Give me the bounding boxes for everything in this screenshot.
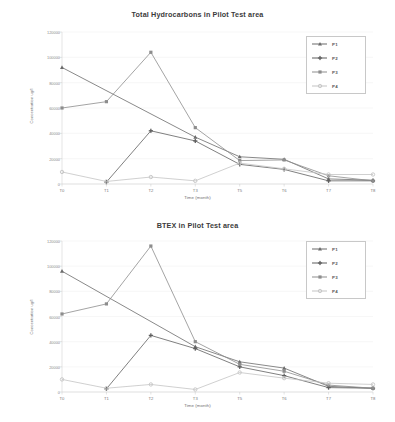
legend-item-P1[interactable]: P1: [307, 37, 365, 51]
data-point-triangle: [318, 247, 322, 251]
legend[interactable]: P1P2P3P4: [306, 241, 366, 299]
legend-label: P3: [332, 70, 338, 75]
data-point-square: [194, 340, 197, 343]
data-point-square: [60, 106, 63, 109]
y-tick-label: 60000: [49, 106, 60, 111]
data-point-square: [60, 312, 63, 315]
series-line-P4: [62, 163, 373, 181]
y-tick-label: 0: [58, 390, 60, 395]
legend-item-P2[interactable]: P2: [307, 51, 365, 65]
legend-item-P2[interactable]: P2: [307, 256, 365, 270]
data-point-square: [105, 302, 108, 305]
data-point-triangle: [193, 135, 197, 139]
legend-label: P2: [332, 261, 338, 266]
data-point-square: [318, 70, 321, 73]
plot-area: 020000400006000080000100000120000T0T1T2T…: [0, 0, 395, 211]
data-point-square: [371, 179, 374, 182]
data-point-square: [149, 51, 152, 54]
data-point-triangle: [60, 65, 64, 69]
legend-marker-icon: [312, 55, 327, 62]
y-tick-label: 100000: [47, 264, 60, 269]
y-tick-label: 80000: [49, 80, 60, 85]
legend-item-P1[interactable]: P1: [307, 242, 365, 256]
plot-area: 020000400006000080000100000120000T0T1T2T…: [0, 211, 395, 422]
y-tick-label: 120000: [47, 239, 60, 244]
x-tick-label: T0: [60, 188, 65, 193]
x-tick-label: T5: [237, 396, 242, 401]
legend-marker-icon: [312, 274, 327, 281]
legend-marker-icon: [312, 69, 327, 76]
data-point-square: [105, 100, 108, 103]
x-tick-label: T6: [282, 396, 287, 401]
x-tick-label: T3: [193, 188, 198, 193]
chart-total-hydrocarbons: Total Hydrocarbons in Pilot Test area Co…: [0, 0, 395, 211]
data-point-square: [194, 126, 197, 129]
data-point-circle: [318, 84, 321, 87]
charts-page: Total Hydrocarbons in Pilot Test area Co…: [0, 0, 395, 422]
data-point-square: [318, 275, 321, 278]
y-tick-label: 100000: [47, 55, 60, 60]
y-tick-label: 40000: [49, 131, 60, 136]
legend-label: P1: [332, 42, 338, 47]
data-point-plus: [193, 139, 197, 143]
legend-label: P4: [332, 289, 338, 294]
data-point-plus: [317, 261, 321, 265]
x-tick-label: T8: [371, 188, 376, 193]
y-tick-label: 20000: [49, 156, 60, 161]
data-point-plus: [317, 56, 321, 60]
data-point-circle: [318, 289, 321, 292]
y-tick-label: 40000: [49, 339, 60, 344]
y-tick-label: 60000: [49, 314, 60, 319]
legend-marker-icon: [312, 260, 327, 267]
y-tick-label: 20000: [49, 364, 60, 369]
legend-marker-icon: [312, 41, 327, 48]
data-point-triangle: [318, 42, 322, 46]
chart-btex: BTEX in Pilot Test area Concentration ug…: [0, 211, 395, 422]
x-axis-label: Time (month): [0, 195, 395, 200]
legend-item-P4[interactable]: P4: [307, 284, 365, 298]
y-tick-labels: 020000400006000080000100000120000: [26, 211, 60, 422]
data-point-square: [149, 244, 152, 247]
data-point-square: [371, 387, 374, 390]
x-tick-label: T7: [326, 188, 331, 193]
x-tick-label: T2: [148, 396, 153, 401]
legend-label: P3: [332, 275, 338, 280]
legend-label: P2: [332, 56, 338, 61]
legend-item-P3[interactable]: P3: [307, 65, 365, 79]
x-tick-label: T5: [237, 188, 242, 193]
x-tick-label: T6: [282, 188, 287, 193]
legend-marker-icon: [312, 288, 327, 295]
data-point-square: [283, 158, 286, 161]
legend-label: P4: [332, 84, 338, 89]
y-tick-labels: 020000400006000080000100000120000: [26, 0, 60, 211]
legend-marker-icon: [312, 83, 327, 90]
x-tick-label: T8: [371, 396, 376, 401]
legend-marker-icon: [312, 246, 327, 253]
y-tick-label: 80000: [49, 289, 60, 294]
legend[interactable]: P1P2P3P4: [306, 36, 366, 94]
x-tick-label: T0: [60, 396, 65, 401]
data-point-square: [238, 363, 241, 366]
legend-item-P3[interactable]: P3: [307, 270, 365, 284]
x-tick-label: T2: [148, 188, 153, 193]
legend-item-P4[interactable]: P4: [307, 79, 365, 93]
x-tick-label: T7: [326, 396, 331, 401]
data-point-square: [283, 370, 286, 373]
y-tick-label: 120000: [47, 30, 60, 35]
legend-label: P1: [332, 247, 338, 252]
x-axis-label: Time (month): [0, 403, 395, 408]
x-tick-label: T1: [104, 188, 109, 193]
y-tick-label: 0: [58, 182, 60, 187]
x-tick-label: T3: [193, 396, 198, 401]
data-point-triangle: [60, 269, 64, 273]
x-tick-label: T1: [104, 396, 109, 401]
